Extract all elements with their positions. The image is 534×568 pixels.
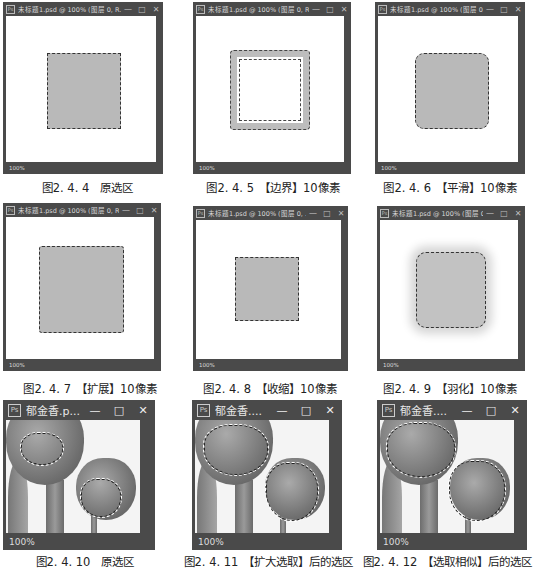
minimize-icon[interactable]: —	[455, 404, 479, 417]
close-icon[interactable]: ✕	[147, 206, 161, 215]
tulip-image-canvas[interactable]	[195, 420, 329, 533]
document-canvas[interactable]	[6, 16, 156, 162]
title-bar[interactable]: Ps 未标题1.psd @ 100% (图层 0, R... — □ ✕	[377, 206, 525, 220]
document-title: 未标题1.psd @ 100% (图层 0, R...	[18, 4, 121, 14]
ps-window-tulip-similar[interactable]: Ps 郁金香.... — □ ✕ 100%	[377, 400, 527, 550]
close-icon[interactable]: ✕	[511, 209, 525, 218]
expanded-selection	[39, 246, 124, 333]
tulip-image-canvas[interactable]	[6, 420, 140, 533]
close-icon[interactable]: ✕	[149, 5, 163, 14]
zoom-level: 100%	[3, 359, 161, 371]
title-bar[interactable]: Ps 未标题1.psd @ 100% (图层 0, ... — □ ✕	[193, 206, 348, 220]
maximize-icon[interactable]: □	[133, 206, 147, 215]
selection-outline	[80, 478, 122, 518]
selection-outline	[448, 460, 506, 522]
ps-app-icon: Ps	[196, 5, 205, 14]
title-bar[interactable]: Ps 未标题1.psd @ 100% (图层 0, R... — □ ✕	[193, 2, 351, 16]
figure-caption: 图2. 4. 10 原选区	[0, 553, 170, 568]
maximize-icon[interactable]: □	[320, 209, 334, 218]
ps-app-icon: Ps	[8, 404, 21, 417]
tulip-image-canvas[interactable]	[380, 420, 514, 533]
title-bar[interactable]: Ps 未标题1.psd @ 100% (图层 0, R... — □ ✕	[3, 203, 161, 217]
zoom-level: 100%	[192, 534, 342, 550]
document-title: 未标题1.psd @ 100% (图层 0, R...	[18, 205, 119, 215]
title-bar[interactable]: Ps 郁金香.... — □ ✕	[192, 400, 342, 420]
title-bar[interactable]: Ps 郁金香.... — □ ✕	[377, 400, 527, 420]
zoom-level: 100%	[377, 534, 527, 550]
document-canvas[interactable]	[378, 16, 518, 162]
figure-caption: 图2. 4. 6 【平滑】10像素	[365, 179, 534, 195]
ps-app-icon: Ps	[6, 5, 15, 14]
ps-window-contract[interactable]: Ps 未标题1.psd @ 100% (图层 0, ... — □ ✕ 100%	[193, 206, 348, 371]
document-title: 未标题1.psd @ 100% (图层 0, ...	[208, 208, 306, 218]
figure-caption: 图2. 4. 5 【边界】10像素	[183, 179, 363, 195]
maximize-icon[interactable]: □	[323, 5, 337, 14]
title-bar[interactable]: Ps 未标题1.psd @ 100% (图层 0, R... — □ ✕	[3, 2, 163, 16]
zoom-level: 100%	[3, 534, 155, 550]
selection-outline	[20, 432, 64, 466]
document-title: 郁金香....	[215, 402, 270, 418]
figure-caption: 图2. 4. 9 【羽化】10像素	[365, 380, 534, 396]
close-icon[interactable]: ✕	[318, 404, 342, 417]
ps-window-expand[interactable]: Ps 未标题1.psd @ 100% (图层 0, R... — □ ✕ 100…	[3, 203, 161, 371]
tulip-stem	[235, 480, 253, 533]
minimize-icon[interactable]: —	[119, 206, 133, 215]
ps-window-border[interactable]: Ps 未标题1.psd @ 100% (图层 0, R... — □ ✕ 100…	[193, 2, 351, 174]
ps-app-icon: Ps	[197, 404, 210, 417]
ps-window-tulip-original[interactable]: Ps 郁金香.p... — □ ✕ 100%	[3, 400, 155, 550]
maximize-icon[interactable]: □	[294, 404, 318, 417]
minimize-icon[interactable]: —	[83, 404, 107, 417]
close-icon[interactable]: ✕	[511, 5, 525, 14]
document-canvas[interactable]	[380, 220, 518, 359]
border-selection	[230, 50, 310, 130]
selection-outline	[386, 422, 456, 478]
document-canvas[interactable]	[196, 16, 344, 162]
minimize-icon[interactable]: —	[309, 5, 323, 14]
ps-app-icon: Ps	[378, 5, 387, 14]
zoom-level: 100%	[375, 162, 525, 174]
zoom-level: 100%	[193, 162, 351, 174]
ps-window-smooth[interactable]: Ps 未标题1.psd @ 100% (图层 0, R... — □ ✕ 100…	[375, 2, 525, 174]
title-bar[interactable]: Ps 未标题1.psd @ 100% (图层 0, R... — □ ✕	[375, 2, 525, 16]
close-icon[interactable]: ✕	[337, 5, 351, 14]
contracted-selection	[235, 257, 299, 321]
ps-app-icon: Ps	[196, 209, 205, 218]
tulip-stem	[46, 480, 64, 533]
smoothed-selection	[415, 53, 489, 129]
zoom-level: 100%	[193, 359, 348, 371]
selection-outline	[203, 424, 269, 476]
minimize-icon[interactable]: —	[483, 5, 497, 14]
title-bar[interactable]: Ps 郁金香.p... — □ ✕	[3, 400, 155, 420]
document-title: 未标题1.psd @ 100% (图层 0, R...	[208, 4, 309, 14]
zoom-level: 100%	[3, 162, 163, 174]
document-title: 未标题1.psd @ 100% (图层 0, R...	[390, 4, 483, 14]
figure-caption: 图2. 4. 4 原选区	[0, 179, 175, 195]
figure-caption: 图2. 4. 12 【选取相似】后的选区	[360, 553, 534, 568]
maximize-icon[interactable]: □	[479, 404, 503, 417]
ps-window-original[interactable]: Ps 未标题1.psd @ 100% (图层 0, R... — □ ✕ 100…	[3, 2, 163, 174]
close-icon[interactable]: ✕	[334, 209, 348, 218]
ps-app-icon: Ps	[380, 209, 389, 218]
ps-window-feather[interactable]: Ps 未标题1.psd @ 100% (图层 0, R... — □ ✕ 100…	[377, 206, 525, 371]
maximize-icon[interactable]: □	[497, 5, 511, 14]
minimize-icon[interactable]: —	[121, 5, 135, 14]
selection-square	[47, 53, 121, 129]
minimize-icon[interactable]: —	[270, 404, 294, 417]
minimize-icon[interactable]: —	[483, 209, 497, 218]
document-canvas[interactable]	[196, 220, 341, 359]
minimize-icon[interactable]: —	[306, 209, 320, 218]
tulip-stem	[420, 480, 438, 533]
selection-outline	[265, 462, 319, 522]
close-icon[interactable]: ✕	[503, 404, 527, 417]
close-icon[interactable]: ✕	[131, 404, 155, 417]
ps-window-tulip-grow[interactable]: Ps 郁金香.... — □ ✕ 100%	[192, 400, 342, 550]
maximize-icon[interactable]: □	[107, 404, 131, 417]
ps-app-icon: Ps	[6, 206, 15, 215]
document-title: 未标题1.psd @ 100% (图层 0, R...	[392, 208, 483, 218]
figure-caption: 图2. 4. 8 【收缩】10像素	[180, 380, 360, 396]
document-canvas[interactable]	[6, 217, 154, 359]
figure-caption: 图2. 4. 11 【扩大选取】后的选区	[176, 553, 361, 568]
maximize-icon[interactable]: □	[135, 5, 149, 14]
maximize-icon[interactable]: □	[497, 209, 511, 218]
ps-app-icon: Ps	[382, 404, 395, 417]
